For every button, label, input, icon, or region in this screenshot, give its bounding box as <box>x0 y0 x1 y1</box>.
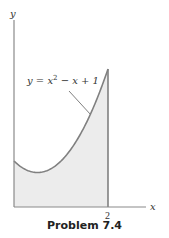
equation-prefix: y = x <box>26 75 53 86</box>
shaded-area <box>14 69 108 207</box>
figure-caption: Problem 7.4 <box>0 219 169 232</box>
equation-label: y = x2 − x + 1 <box>26 74 99 86</box>
x-axis-label: x <box>150 201 156 212</box>
leader-line <box>69 91 91 115</box>
plot: y x 2 y = x2 − x + 1 <box>0 0 169 238</box>
y-axis-label: y <box>9 8 16 19</box>
equation-suffix: − x + 1 <box>58 75 99 86</box>
